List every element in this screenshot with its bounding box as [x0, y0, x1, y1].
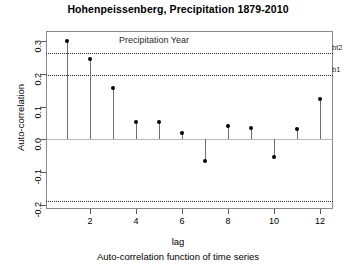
y-tick-label-3: 0.0 [33, 138, 43, 151]
reference-line-label-b1: b1 [332, 65, 340, 74]
x-tick-label-4: 10 [262, 216, 286, 226]
x-tick-label-5: 12 [308, 216, 332, 226]
point-lag-1 [65, 39, 69, 43]
x-tick-4 [274, 209, 275, 214]
reference-line-lower [46, 201, 333, 202]
x-tick-0 [90, 209, 91, 214]
point-lag-7 [203, 159, 207, 163]
plot-annotation: Precipitation Year [119, 35, 189, 45]
y-tick-label-1: 0.2 [33, 73, 43, 86]
x-tick-1 [136, 209, 137, 214]
stem-lag-3 [113, 88, 114, 139]
stem-lag-4 [136, 122, 137, 139]
chart-figure: Hohenpeissenberg, Precipitation 1879-201… [0, 0, 356, 278]
point-lag-9 [249, 126, 253, 130]
stem-lag-5 [159, 122, 160, 139]
chart-title: Hohenpeissenberg, Precipitation 1879-201… [0, 3, 356, 15]
x-tick-5 [320, 209, 321, 214]
y-axis-title: Auto-correlation [15, 68, 26, 168]
point-lag-5 [157, 120, 161, 124]
x-axis-title: lag [0, 236, 356, 247]
point-lag-10 [272, 155, 276, 159]
reference-line-label-bt2: bt2 [332, 43, 342, 52]
point-lag-8 [226, 124, 230, 128]
point-lag-2 [88, 57, 92, 61]
point-lag-12 [318, 97, 322, 101]
x-tick-label-3: 8 [216, 216, 240, 226]
x-tick-2 [182, 209, 183, 214]
reference-line-bt2 [46, 53, 333, 54]
point-lag-3 [111, 86, 115, 90]
y-tick-label-2: 0.1 [33, 106, 43, 119]
stem-lag-1 [67, 41, 68, 139]
x-tick-label-1: 4 [124, 216, 148, 226]
point-lag-11 [295, 127, 299, 131]
chart-subtitle: Auto-correlation function of time series [0, 251, 356, 262]
stem-lag-7 [205, 139, 206, 161]
x-tick-3 [228, 209, 229, 214]
point-lag-4 [134, 120, 138, 124]
stem-lag-2 [90, 59, 91, 139]
y-tick-label-0: 0.3 [33, 40, 43, 53]
point-lag-6 [180, 131, 184, 135]
stem-lag-12 [320, 99, 321, 139]
x-tick-label-2: 6 [170, 216, 194, 226]
x-tick-label-0: 2 [78, 216, 102, 226]
y-tick-label-5: -0.2 [33, 202, 43, 218]
y-tick-label-4: -0.1 [33, 169, 43, 185]
